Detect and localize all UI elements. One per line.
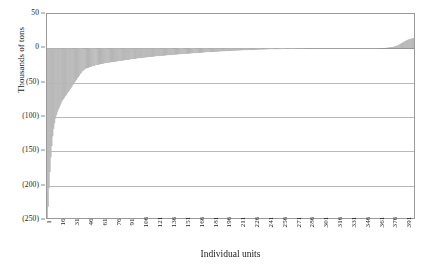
x-tick: 226 [249,219,259,247]
y-tick-label: (200) [22,181,39,189]
x-tick: 241 [263,219,273,247]
x-tick: 361 [374,219,384,247]
x-tick: 151 [180,219,190,247]
y-tick-label: (250) [22,215,39,223]
y-tick-mark [41,184,45,185]
x-tick-label: 151 [185,217,192,228]
plot-area [46,13,415,219]
x-tick: 31 [69,219,79,247]
y-tick-mark [41,47,45,48]
x-tick-label: 271 [296,217,303,228]
x-tick-label: 346 [365,217,372,228]
x-tick: 316 [332,219,342,247]
x-tick: 46 [83,219,93,247]
y-tick-label: (100) [22,112,39,120]
x-tick: 136 [166,219,176,247]
y-tick-mark [41,116,45,117]
x-tick-label: 361 [379,217,386,228]
x-tick: 331 [346,219,356,247]
x-tick-label: 256 [282,217,289,228]
y-tick-label: (50) [26,78,39,86]
y-tick-label: 0 [35,44,39,52]
x-tick: 61 [97,219,107,247]
x-tick: 376 [387,219,397,247]
x-tick-label: 226 [254,217,261,228]
x-tick-label: 286 [309,217,316,228]
x-tick-label: 241 [268,217,275,228]
x-tick-label: 16 [60,218,67,225]
x-tick: 121 [152,219,162,247]
y-tick-label: 50 [31,9,39,17]
y-axis-ticks: 500(50)(100)(150)(200)(250) [0,13,44,219]
x-tick: 391 [401,219,411,247]
x-tick-label: 196 [226,217,233,228]
x-tick: 211 [235,219,245,247]
x-tick-label: 331 [351,217,358,228]
y-tick-mark [41,13,45,14]
x-tick: 1 [41,219,51,247]
y-tick-mark [41,81,45,82]
x-tick-label: 376 [392,217,399,228]
x-tick: 106 [138,219,148,247]
bar-series [47,14,414,218]
chart-root: Thousands of tons 500(50)(100)(150)(200)… [0,0,426,269]
x-tick: 346 [360,219,370,247]
x-tick-label: 211 [240,217,247,228]
x-tick: 256 [277,219,287,247]
x-tick: 181 [208,219,218,247]
x-tick-label: 166 [199,217,206,228]
x-tick-label: 61 [102,218,109,225]
x-tick: 271 [291,219,301,247]
x-tick-label: 121 [157,217,164,228]
x-tick: 301 [318,219,328,247]
x-tick-label: 91 [129,218,136,225]
y-tick-label: (150) [22,147,39,155]
x-tick-label: 136 [171,217,178,228]
x-tick-label: 106 [143,217,150,228]
y-tick-mark [41,150,45,151]
x-axis-ticks: 1163146617691106121136151166181196211226… [46,219,415,249]
x-axis-title: Individual units [46,249,415,259]
x-tick: 196 [221,219,231,247]
x-tick-label: 181 [213,217,220,228]
x-tick: 166 [194,219,204,247]
x-tick-label: 301 [323,217,330,228]
x-tick: 286 [304,219,314,247]
x-tick-label: 391 [406,217,413,228]
x-tick: 76 [111,219,121,247]
x-tick: 91 [124,219,134,247]
x-tick-label: 316 [337,217,344,228]
x-tick-label: 46 [88,218,95,225]
x-tick-label: 76 [116,218,123,225]
x-tick-label: 1 [46,220,53,224]
x-tick-label: 31 [74,218,81,225]
x-tick: 16 [55,219,65,247]
